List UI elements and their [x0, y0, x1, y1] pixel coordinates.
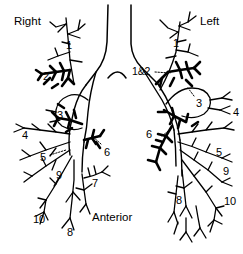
right-segment-label-7: 7 [92, 178, 98, 189]
left-segment-label-6: 6 [146, 129, 152, 140]
bronchial-tree-diagram: Right Left Anterior 1 2 3 4 5 6 7 8 9 10… [0, 0, 243, 254]
right-segment-label-8: 8 [67, 227, 73, 238]
right-segment-label-4: 4 [22, 130, 28, 141]
left-segment-label-1and2: 1&2 [132, 66, 150, 77]
right-segment-label-5: 5 [40, 152, 46, 163]
left-segment-label-1: 1 [173, 38, 179, 49]
left-segment-label-4: 4 [233, 107, 239, 118]
right-upper-lobe-dense-branches [36, 63, 74, 88]
right-segment-label-2: 2 [43, 71, 49, 82]
leader-left-3 [188, 88, 194, 96]
orientation-label-left: Left [200, 16, 219, 28]
right-segment-label-3: 3 [57, 110, 63, 121]
orientation-label-right: Right [14, 16, 41, 28]
left-segment-label-3: 3 [196, 98, 202, 109]
left-segment-label-8: 8 [176, 195, 182, 206]
left-segment-label-5: 5 [216, 147, 222, 158]
orientation-label-anterior: Anterior [92, 212, 132, 224]
right-superior-segment-bronchus [84, 130, 104, 148]
right-segment-label-9: 9 [56, 170, 62, 181]
right-segment-label-1: 1 [66, 40, 72, 51]
left-segment-label-9: 9 [223, 166, 229, 177]
left-upper-lobe-dense-branches [156, 62, 200, 86]
left-lower-lobe-bronchi [168, 122, 234, 242]
left-segment-label-10: 10 [224, 196, 236, 207]
right-segment-label-10: 10 [33, 214, 45, 225]
right-segment-label-6: 6 [104, 147, 110, 158]
